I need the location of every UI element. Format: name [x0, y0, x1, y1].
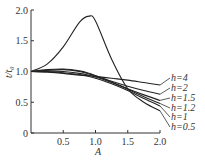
- line-chart: 0.51.01.52.000.51.01.52.0 h=4h=2h=1.5h=1…: [0, 0, 205, 160]
- y-axis-label: t/t₀: [3, 66, 14, 78]
- y-tick-label: 0: [23, 128, 28, 139]
- x-tick-label: 2.0: [154, 136, 167, 147]
- y-tick-label: 0.5: [16, 97, 29, 108]
- x-tick-label: 0.5: [57, 136, 70, 147]
- x-axis-label: A: [94, 146, 102, 157]
- x-tick-label: 1.5: [122, 136, 135, 147]
- y-tick-label: 1.5: [16, 35, 29, 46]
- y-tick-label: 1.0: [16, 66, 29, 77]
- series-label: h=0.5: [171, 121, 195, 132]
- y-tick-label: 2.0: [16, 5, 29, 16]
